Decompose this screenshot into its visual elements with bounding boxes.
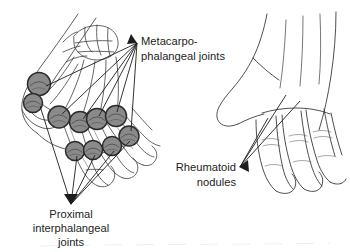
nodule-circle: [84, 141, 103, 160]
nodules-label-line1: Rheumatoid: [176, 161, 236, 173]
nodule-pip-extra: [119, 126, 139, 146]
nodule-pip-middle: [84, 141, 103, 160]
nodule-circle: [28, 73, 51, 96]
nodules-label-line2: nodules: [197, 176, 237, 188]
pip-label-line3: joints: [57, 236, 85, 248]
nodule-circle: [87, 109, 108, 130]
nodule-circle: [106, 106, 127, 127]
nodule-circle: [119, 126, 139, 146]
nodule-mcp-ring: [87, 109, 108, 130]
pip-label-line1: Proximal: [49, 208, 93, 220]
figure-canvas: Metacarpo- phalangeal joints Proximal in…: [0, 0, 350, 252]
nodule-circle: [24, 94, 43, 113]
pip-label-line2: interphalangeal: [33, 222, 110, 234]
mcp-label-line2: phalangeal joints: [141, 50, 225, 62]
nodule-mcp-thumb2: [24, 94, 43, 113]
nodule-mcp-little: [106, 106, 127, 127]
nodule-pip-index: [66, 142, 85, 161]
nodule-circle: [66, 142, 85, 161]
nodule-mcp-thumb: [28, 73, 51, 96]
mcp-label-line1: Metacarpo-: [141, 35, 198, 47]
rheumatoid-arthritis-hand-figure: Metacarpo- phalangeal joints Proximal in…: [0, 0, 350, 252]
